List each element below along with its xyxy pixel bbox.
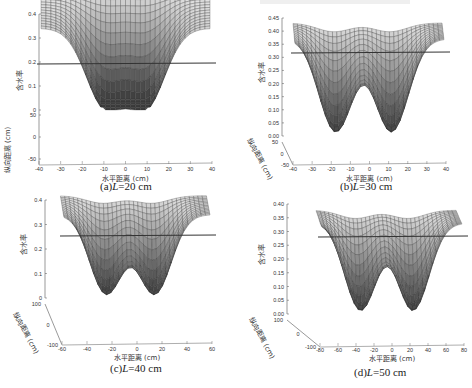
x-tick-label: 40 [425,347,431,353]
z-axis: 0.000.050.100.150.200.250.300.350.400.45… [257,15,284,139]
y-axis: -1000100纵向距离 (cm) [11,301,62,356]
x-axis: -60-40-200204060水平距离 (cm) [58,341,215,362]
x-tick-label: -60 [58,346,66,352]
x-tick-label: 40 [209,166,215,172]
x-tick-label: -10 [346,166,354,172]
y-axis-label: 纵向距离 (cm) [3,127,12,174]
z-tick-label: 0.10 [273,284,284,290]
x-tick-label: -40 [35,166,43,172]
z-tick-label: 0.25 [273,242,284,248]
y-tick-label: 50 [272,139,278,145]
caption-c: (c)L=40 cm [110,362,162,374]
caption-a: (a)L=20 cm [100,180,152,192]
x-tick-label: 30 [187,166,193,172]
x-axis-label: 水平距离 (cm) [114,353,161,362]
y-axis-label: 纵向距离 (cm) [245,136,275,181]
y-tick-label: -50 [28,156,36,162]
x-tick-label: -60 [334,347,342,353]
x-tick-label: 0 [390,347,393,353]
x-axis: -80-60-40-20020406080水平距离 (cm) [316,343,467,363]
z-tick-label: 0.45 [268,15,279,21]
surface-plot-a: 00.10.20.30.4含水率-40-30-20-10010203040水平距… [0,0,236,194]
y-axis-label: 纵向距离 (cm) [247,315,277,360]
z-tick-label: 0.1 [28,83,36,89]
z-tick-label: 0.30 [273,229,284,235]
z-tick-label: 0.3 [34,222,42,228]
x-tick-label: 60 [209,346,215,352]
z-axis: 0.000.050.100.150.200.250.300.350.40含水率 [257,201,289,317]
y-tick-label: 0 [280,151,283,157]
x-tick-label: 20 [159,346,165,352]
x-tick-label: -40 [289,166,297,172]
surface-plot-b: 0.000.050.100.150.200.250.300.350.400.45… [236,0,472,194]
x-tick-label: -20 [370,347,378,353]
z-tick-label: 0.4 [34,197,42,203]
z-tick-label: 0.35 [273,215,284,221]
z-tick-label: 0.40 [268,28,279,34]
x-tick-label: 0 [124,166,127,172]
z-tick-label: 0.2 [34,246,42,252]
y-tick-label: 0 [46,322,49,328]
z-axis-label: 含水率 [19,234,28,255]
x-tick-label: 0 [368,166,371,172]
y-axis-label: 纵向距离 (cm) [11,310,41,355]
y-axis: -50050纵向距离 (cm) [245,136,293,181]
x-tick-label: 10 [144,166,150,172]
y-tick-label: -100 [305,344,316,350]
y-tick-label: 0 [296,331,299,337]
x-tick-label: 60 [443,347,449,353]
x-tick-label: -20 [327,166,335,172]
surface-plot-c: 00.10.20.30.4含水率-60-40-200204060水平距离 (cm… [0,194,236,388]
surface-mesh [60,196,210,295]
x-tick-label: -10 [100,166,108,172]
z-tick-label: 0.25 [268,67,279,73]
panel-b: 0.000.050.100.150.200.250.300.350.400.45… [236,0,472,194]
z-tick-label: 0.15 [268,94,279,100]
x-tick-label: 80 [461,347,467,353]
z-tick-label: 0.40 [273,201,284,207]
x-tick-label: 40 [443,166,449,172]
y-axis: -1000100纵向距离 (cm) [247,315,320,360]
z-axis: 00.10.20.30.4含水率 [15,11,41,113]
x-tick-label: 40 [184,346,190,352]
z-tick-label: 0.2 [28,59,36,65]
rim-line [37,63,216,64]
z-tick-label: 0.20 [268,81,279,87]
x-tick-label: 0 [135,346,138,352]
surface-mesh [293,23,444,132]
caption-d: (d)L=50 cm [354,366,406,378]
panel-d: 0.000.050.100.150.200.250.300.350.40含水率-… [236,194,472,388]
x-tick-label: -40 [83,346,91,352]
x-tick-label: 20 [405,166,411,172]
x-tick-label: -30 [308,166,316,172]
x-tick-label: -30 [57,166,65,172]
x-axis-label: 水平距离 (cm) [369,354,416,363]
x-tick-label: 20 [407,347,413,353]
y-tick-label: 0 [33,134,36,140]
panel-c: 00.10.20.30.4含水率-60-40-200204060水平距离 (cm… [0,194,236,388]
y-tick-label: 100 [32,301,41,307]
x-tick-label: 10 [386,166,392,172]
surface-mesh [316,210,462,310]
z-axis-label: 含水率 [15,70,24,91]
z-tick-label: 0.05 [268,120,279,126]
z-tick-label: 0.30 [268,54,279,60]
caption-b: (b)L=30 cm [340,180,392,192]
z-tick-label: 0.20 [273,256,284,262]
x-tick-label: 30 [424,166,430,172]
surface-mesh [41,0,210,110]
y-tick-label: 100 [274,317,283,323]
z-axis-label: 含水率 [257,244,266,265]
z-tick-label: 0.35 [268,41,279,47]
y-axis: 500-50纵向距离 (cm) [3,110,41,173]
x-tick-label: -40 [352,347,360,353]
y-tick-label: 50 [30,112,36,118]
x-tick-label: -80 [316,347,324,353]
z-tick-label: 0.3 [28,35,36,41]
z-tick-label: 0.4 [28,11,36,17]
z-axis: 00.10.20.30.4含水率 [19,197,47,301]
z-tick-label: 0.10 [268,107,279,113]
x-tick-label: 20 [166,166,172,172]
x-tick-label: -20 [108,346,116,352]
z-axis-label: 含水率 [257,62,266,83]
